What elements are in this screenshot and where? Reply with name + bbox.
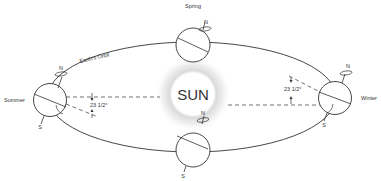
sun-label: SUN (177, 86, 209, 103)
south-label: S (181, 173, 185, 179)
earth-orbit-diagram: SUN Earth's Orbit N S Summer 23 1/2° N S (0, 0, 381, 181)
north-label: N (204, 19, 208, 25)
season-label-summer: Summer (4, 97, 25, 103)
season-label-spring: Spring (185, 3, 201, 9)
svg-text:23 1/2°: 23 1/2° (90, 102, 108, 108)
sun: SUN (155, 56, 231, 132)
earth-spring: N (176, 19, 211, 62)
orbit-label: Earth's Orbit (79, 51, 110, 64)
season-label-winter: Winter (361, 95, 377, 101)
south-label: S (322, 122, 326, 128)
north-label: N (59, 65, 63, 71)
earth-winter: N S (319, 63, 353, 128)
winter-tilt-annotation: 23 1/2° (284, 77, 302, 104)
north-label: N (201, 110, 205, 116)
south-label: S (38, 124, 42, 130)
north-label: N (346, 63, 350, 69)
rotation-arrow-icon (199, 26, 211, 32)
svg-text:23 1/2°: 23 1/2° (284, 86, 302, 92)
rotation-arrow-icon (340, 70, 352, 76)
